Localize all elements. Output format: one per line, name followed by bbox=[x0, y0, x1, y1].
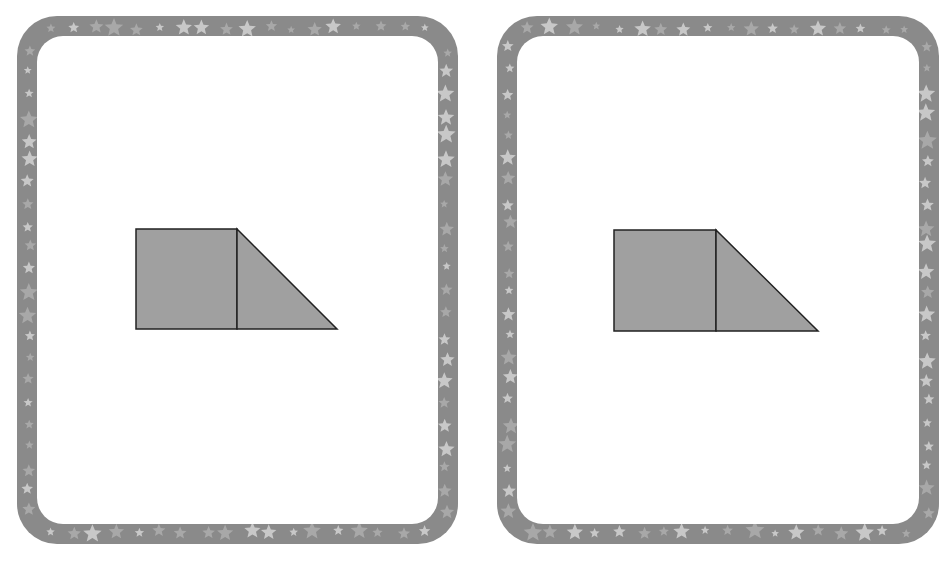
triangle-shape bbox=[237, 229, 337, 329]
trapezoid-figure-left bbox=[0, 0, 952, 561]
square-shape bbox=[136, 229, 237, 329]
square-shape bbox=[614, 230, 716, 331]
triangle-shape bbox=[716, 230, 818, 331]
